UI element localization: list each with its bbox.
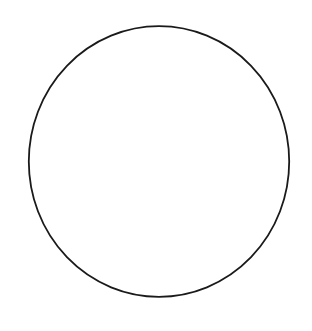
diagram-canvas [0,0,312,331]
background [0,0,312,331]
diagram-svg [0,0,312,331]
